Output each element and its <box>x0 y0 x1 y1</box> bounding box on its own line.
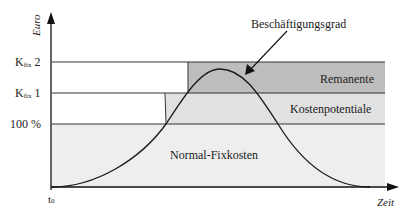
t0-label: t0 <box>48 193 55 205</box>
y-axis-arrow-icon <box>47 12 55 24</box>
kfix1-label: Kfix1 <box>15 86 40 100</box>
kostenpotentiale-label: Kostenpotentiale <box>290 102 371 116</box>
x-axis-label: Zeit <box>377 196 395 208</box>
kfix2-label: Kfix2 <box>15 55 40 69</box>
kostenpotentiale-divider <box>165 93 166 124</box>
x-axis-arrow-icon <box>387 183 399 191</box>
normal-fixkosten-label: Normal-Fixkosten <box>170 148 258 162</box>
hundred-percent-label: 100 % <box>10 117 41 131</box>
remanente-label: Remanente <box>320 72 374 86</box>
y-axis-label: Euro <box>30 14 42 37</box>
fixed-cost-diagram: Euro Zeit Kfix2 Kfix1 100 % t0 Beschäfti… <box>0 0 406 211</box>
curve-annotation-label: Beschäftigungsgrad <box>251 17 346 31</box>
